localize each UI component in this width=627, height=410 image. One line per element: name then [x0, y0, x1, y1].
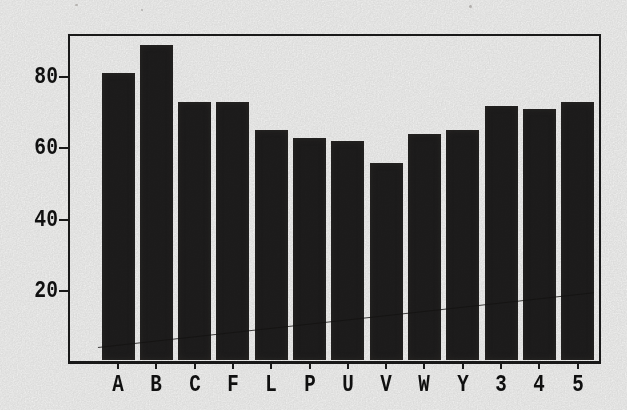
x-tick: [423, 364, 425, 369]
bar-5: [561, 102, 594, 360]
x-axis-label: A: [102, 372, 134, 398]
x-axis-label: F: [217, 372, 249, 398]
y-axis-tick-label: 40: [22, 207, 58, 233]
x-tick: [500, 364, 502, 369]
plot-area: [68, 34, 601, 364]
bar-F: [216, 102, 249, 360]
bar-V: [370, 163, 403, 361]
x-axis-label: W: [408, 372, 440, 398]
x-tick: [270, 364, 272, 369]
x-axis-label: 3: [485, 372, 517, 398]
x-axis-label: P: [294, 372, 326, 398]
y-tick: [59, 219, 68, 221]
x-tick: [577, 364, 579, 369]
y-axis-tick-label: 60: [22, 135, 58, 161]
x-tick: [309, 364, 311, 369]
x-axis-label: U: [332, 372, 364, 398]
bar-B: [140, 45, 173, 360]
bar-W: [408, 134, 441, 360]
x-tick: [385, 364, 387, 369]
y-tick: [59, 76, 68, 78]
bar-A: [102, 73, 135, 360]
y-axis-tick-label: 80: [22, 64, 58, 90]
bar-P: [293, 138, 326, 360]
x-tick: [232, 364, 234, 369]
bar-C: [178, 102, 211, 360]
bar-4: [523, 109, 556, 360]
x-tick: [194, 364, 196, 369]
bar-Y: [446, 130, 479, 360]
x-tick: [155, 364, 157, 369]
y-axis-tick-label: 20: [22, 278, 58, 304]
x-axis-label: V: [370, 372, 402, 398]
y-tick: [59, 290, 68, 292]
x-axis-label: L: [255, 372, 287, 398]
x-axis-label: 4: [523, 372, 555, 398]
x-tick: [117, 364, 119, 369]
scan-speck: [469, 5, 472, 8]
y-tick: [59, 147, 68, 149]
x-axis-label: C: [179, 372, 211, 398]
scan-speck: [75, 4, 78, 6]
bar-3: [485, 106, 518, 361]
x-tick: [347, 364, 349, 369]
bar-U: [331, 141, 364, 360]
x-axis-label: B: [140, 372, 172, 398]
scan-speck: [141, 9, 143, 11]
x-axis-label: Y: [447, 372, 479, 398]
x-tick: [462, 364, 464, 369]
x-tick: [538, 364, 540, 369]
x-axis-label: 5: [562, 372, 594, 398]
scanned-bar-chart-figure: ABCFLPUVWY34520406080: [0, 0, 627, 410]
